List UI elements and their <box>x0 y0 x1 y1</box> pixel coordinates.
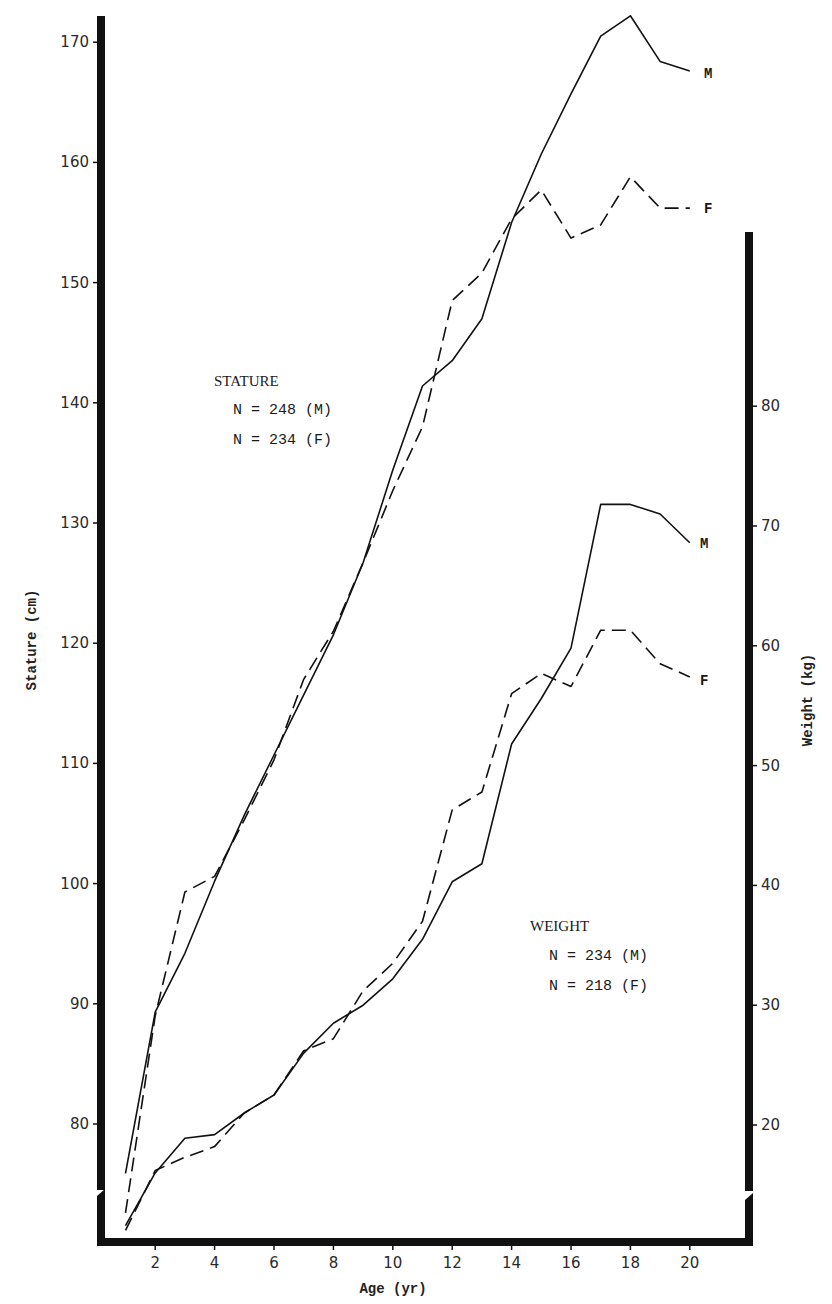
y-left-tick-label: 160 <box>60 153 89 171</box>
series-layer <box>126 16 690 1231</box>
y-right-tick-label: 80 <box>761 397 780 415</box>
stature-female-label: F <box>704 201 712 217</box>
y-right-tick-label: 50 <box>761 757 780 775</box>
x-tick-label: 16 <box>561 1254 580 1272</box>
y-axis-right-break <box>745 1193 753 1245</box>
y-right-tick-label: 20 <box>761 1116 780 1134</box>
y-left-tick-label: 90 <box>70 995 89 1013</box>
x-tick-label: 12 <box>443 1254 462 1272</box>
x-tick-label: 8 <box>329 1254 339 1272</box>
y-left-tick-label: 80 <box>70 1115 89 1133</box>
x-tick-label: 2 <box>150 1254 160 1272</box>
x-tick-label: 4 <box>210 1254 220 1272</box>
y-left-tick-label: 120 <box>60 634 89 652</box>
y-left-tick-label: 170 <box>60 33 89 51</box>
stature-annotation-n-male: N = 248 (M) <box>233 402 332 419</box>
y-left-tick-label: 150 <box>60 274 89 292</box>
y-left-tick-label: 100 <box>60 875 89 893</box>
weight-annotation-title: WEIGHT <box>530 918 589 934</box>
x-tick-label: 6 <box>269 1254 279 1272</box>
stature-male-label: M <box>704 66 712 82</box>
stature-annotation-n-female: N = 234 (F) <box>233 432 332 449</box>
weight-male-line <box>126 504 690 1225</box>
weight-female-label: F <box>700 673 708 689</box>
growth-chart: 2468101214161820809010011012013014015016… <box>0 0 832 1304</box>
y-axis-left-title: Stature (cm) <box>24 590 40 691</box>
weight-female-line <box>126 630 690 1230</box>
weight-annotation-n-male: N = 234 (M) <box>549 948 648 965</box>
stature-annotation-title: STATURE <box>214 373 279 389</box>
x-axis-title: Age (yr) <box>359 1281 426 1297</box>
x-tick-label: 10 <box>383 1254 402 1272</box>
y-left-tick-label: 140 <box>60 394 89 412</box>
stature-female-line <box>126 177 690 1213</box>
stature-annotation: STATURE N = 248 (M) N = 234 (F) <box>214 373 332 449</box>
y-axis-right-title: Weight (kg) <box>800 654 816 746</box>
y-axis-right-line <box>745 232 753 1191</box>
weight-male-label: M <box>700 536 708 552</box>
x-tick-label: 20 <box>680 1254 699 1272</box>
x-tick-label: 18 <box>621 1254 640 1272</box>
weight-annotation: WEIGHT N = 234 (M) N = 218 (F) <box>530 918 648 995</box>
y-left-tick-label: 130 <box>60 514 89 532</box>
y-right-tick-label: 30 <box>761 996 780 1014</box>
y-right-tick-label: 60 <box>761 637 780 655</box>
y-left-tick-label: 110 <box>60 754 89 772</box>
y-axis-left-line <box>97 16 105 1190</box>
y-right-tick-label: 70 <box>761 517 780 535</box>
y-right-tick-label: 40 <box>761 876 780 894</box>
x-tick-label: 14 <box>502 1254 521 1272</box>
axes: 2468101214161820809010011012013014015016… <box>60 16 780 1272</box>
weight-annotation-n-female: N = 218 (F) <box>549 978 648 995</box>
y-axis-left-break <box>97 1189 105 1245</box>
x-axis-line <box>97 1238 753 1246</box>
stature-male-line <box>126 16 690 1174</box>
